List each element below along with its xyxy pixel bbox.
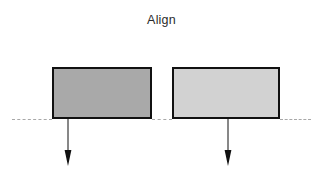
align-diagram: Align (0, 0, 323, 182)
down-arrow-icon-right (221, 119, 235, 166)
alignment-baseline-middle-segment (152, 119, 172, 120)
alignment-baseline-right-segment (280, 119, 311, 120)
down-arrow-icon-left (61, 119, 75, 166)
shape-rectangle-right (172, 67, 280, 119)
alignment-baseline-left-segment (12, 119, 52, 120)
shape-rectangle-left (52, 67, 152, 119)
diagram-title: Align (0, 13, 323, 27)
